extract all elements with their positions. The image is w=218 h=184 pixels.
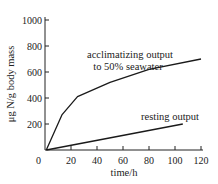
y-tick-label: 400	[27, 93, 42, 104]
acclimatizing-output-line	[46, 59, 201, 150]
x-tick-label: 20	[66, 155, 76, 166]
resting-output-line	[46, 124, 183, 150]
x-tick-label: 40	[92, 155, 102, 166]
x-tick-label: 100	[168, 155, 183, 166]
x-tick-label: 120	[194, 155, 209, 166]
y-axis-label: μg N/g body mass	[5, 46, 16, 123]
y-tick-label: 800	[27, 41, 42, 52]
y-tick-label: 1000	[22, 15, 42, 26]
x-tick-label: 80	[144, 155, 154, 166]
x-tick-label: 60	[118, 155, 128, 166]
x-axis-label: time/h	[111, 167, 139, 178]
acclimatizing-annotation-line-1: acclimatizing output	[87, 49, 173, 60]
acclimatizing-annotation-line-2: to 50% seawater	[93, 61, 163, 72]
y-tick-label: 600	[27, 67, 42, 78]
line-chart: 02004006008001000 20406080100120 μg N/g …	[0, 0, 218, 184]
resting-annotation: resting output	[141, 111, 199, 122]
x-ticks: 20406080100120	[66, 146, 209, 166]
y-tick-label: 200	[27, 119, 42, 130]
y-tick-label: 0	[36, 155, 41, 166]
